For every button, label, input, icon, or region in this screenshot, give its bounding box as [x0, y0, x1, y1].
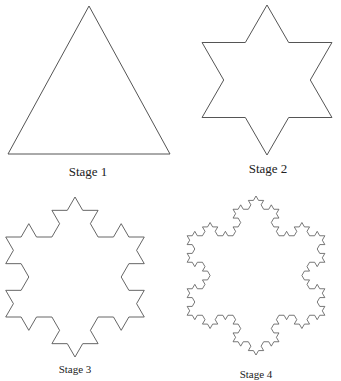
stage-3-label: Stage 3 [59, 363, 92, 375]
stage-4-label: Stage 4 [240, 368, 273, 380]
stage-2-star [202, 5, 332, 155]
stage-3-snowflake [6, 197, 145, 357]
stage-2-label: Stage 2 [249, 161, 288, 177]
stage-4-snowflake [187, 196, 325, 355]
stage-1-label: Stage 1 [69, 164, 108, 180]
koch-snowflake-diagram [0, 0, 341, 381]
stage-1-triangle [8, 6, 170, 154]
